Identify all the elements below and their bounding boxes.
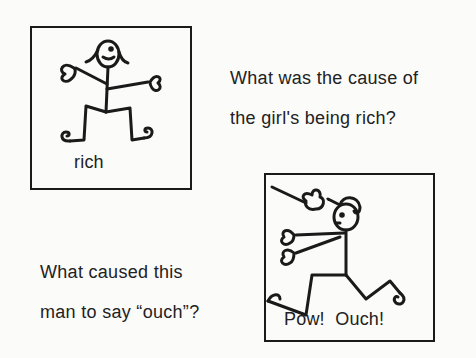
rich-picture-panel: rich (30, 26, 192, 190)
rich-caption: rich (74, 152, 104, 173)
question-2-line-2: man to say “ouch”? (40, 302, 199, 323)
pow-ouch-caption: Pow! Ouch! (284, 309, 384, 330)
question-1-line-2: the girl's being rich? (230, 108, 396, 129)
ouch-picture-panel: Pow! Ouch! (264, 173, 435, 342)
question-1-line-1: What was the cause of (230, 68, 418, 89)
question-2-line-1: What caused this (40, 262, 183, 283)
girl-stick-figure-icon (32, 28, 190, 188)
